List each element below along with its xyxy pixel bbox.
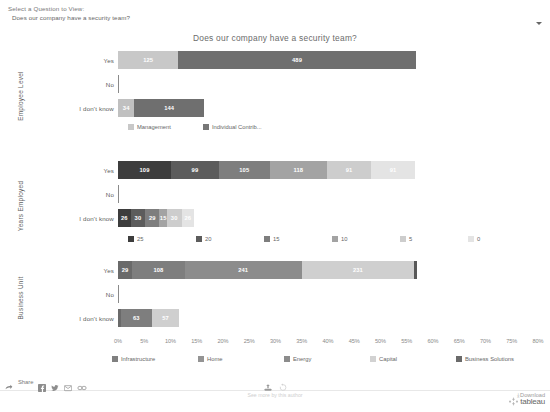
stacked-bar[interactable]: 125489 <box>118 51 416 69</box>
bar-segment[interactable]: 29 <box>145 209 159 227</box>
legend-item[interactable]: 10 <box>332 236 400 242</box>
bar-segment[interactable]: 63 <box>121 309 151 327</box>
viz-toolbar: Share See more by this author <box>0 376 550 412</box>
bar-segment[interactable]: 26 <box>182 209 195 227</box>
bar-segment[interactable] <box>118 75 119 93</box>
stacked-bar[interactable] <box>118 185 120 203</box>
bar-segment[interactable]: 26 <box>118 209 131 227</box>
legend-item[interactable]: 5 <box>400 236 468 242</box>
bar-segment[interactable]: 30 <box>167 209 182 227</box>
tableau-logo[interactable]: tableau <box>509 392 545 410</box>
legend-item[interactable]: 15 <box>264 236 332 242</box>
link-icon[interactable] <box>77 378 85 386</box>
legend-item[interactable]: 20 <box>196 236 264 242</box>
bar-segment[interactable] <box>118 285 119 303</box>
row-label: No <box>106 291 118 298</box>
share-arrow-icon[interactable] <box>5 378 13 386</box>
chevron-down-icon[interactable] <box>536 22 542 25</box>
bar-segment[interactable]: 15 <box>159 209 166 227</box>
bar-segment[interactable]: 29 <box>118 261 132 279</box>
bar-segment[interactable]: 105 <box>219 161 270 179</box>
bar-segment[interactable]: 30 <box>131 209 146 227</box>
axis-tick: 50% <box>375 338 386 344</box>
row-label: I don't know <box>79 215 118 222</box>
legend-item[interactable]: Individual Contrib... <box>203 124 278 130</box>
bar-segment[interactable]: 125 <box>118 51 178 69</box>
panel-business-unit: Business Unit Yes29108241231NoI don't kn… <box>0 258 550 376</box>
stacked-bar[interactable]: 34144 <box>118 99 204 117</box>
stacked-bar[interactable]: 109991051189191 <box>118 161 415 179</box>
bar-segment[interactable]: 489 <box>178 51 415 69</box>
legend-label: Individual Contrib... <box>212 124 262 130</box>
legend-label: Energy <box>293 356 311 362</box>
bar-segment[interactable]: 144 <box>134 99 204 117</box>
legend-years-employed[interactable]: 2520151050 <box>128 236 536 242</box>
panel-axis-title-years-employed: Years Employed <box>14 158 26 254</box>
chart-row: Yes109991051189191 <box>118 158 538 182</box>
axis-tick: 35% <box>296 338 307 344</box>
bar-segment[interactable]: 241 <box>185 261 302 279</box>
legend-swatch <box>370 356 376 362</box>
facebook-icon[interactable] <box>38 378 46 386</box>
bar-segment[interactable]: 231 <box>302 261 414 279</box>
legend-label: 25 <box>137 236 143 242</box>
bar-segment[interactable]: 91 <box>371 161 415 179</box>
x-axis-tick-labels: 0%5%10%15%20%25%30%35%40%45%50%55%60%65%… <box>118 338 538 348</box>
question-filter[interactable]: Select a Question to View: Does our comp… <box>8 4 308 22</box>
panel-rows: Yes109991051189191NoI don't know26302915… <box>118 158 538 230</box>
tableau-viz: Select a Question to View: Does our comp… <box>0 0 550 412</box>
legend-swatch <box>198 356 204 362</box>
bar-segment[interactable] <box>414 261 417 279</box>
share-group[interactable]: Share <box>5 378 85 386</box>
stacked-bar[interactable]: 29108241231 <box>118 261 417 279</box>
bar-segment[interactable]: 99 <box>171 161 219 179</box>
bar-segment[interactable]: 57 <box>152 309 180 327</box>
panel-axis-title-employee-level: Employee Level <box>14 48 26 144</box>
legend-item[interactable]: Infrastructure <box>112 356 198 362</box>
legend-swatch <box>196 236 202 242</box>
legend-label: Management <box>137 124 171 130</box>
axis-title-text: Business Unit <box>17 277 24 320</box>
stacked-bar[interactable]: 263029153026 <box>118 209 194 227</box>
stacked-bar[interactable] <box>118 285 120 303</box>
legend-item[interactable]: Energy <box>284 356 370 362</box>
axis-tick: 30% <box>270 338 281 344</box>
bar-segment[interactable]: 118 <box>270 161 327 179</box>
axis-tick: 55% <box>401 338 412 344</box>
see-more-label[interactable]: See more by this author <box>247 392 302 398</box>
axis-tick: 10% <box>165 338 176 344</box>
legend-business-unit[interactable]: InfrastructureHomeEnergyCapitalBusiness … <box>112 356 542 362</box>
legend-label: 5 <box>409 236 412 242</box>
legend-item[interactable]: Capital <box>370 356 456 362</box>
legend-item[interactable]: 0 <box>468 236 536 242</box>
tableau-mark-icon <box>509 392 518 410</box>
chart-row: I don't know6357 <box>118 306 538 330</box>
legend-item[interactable]: Home <box>198 356 284 362</box>
row-label: I don't know <box>79 315 118 322</box>
chart-row: No <box>118 182 538 206</box>
bar-segment[interactable]: 34 <box>118 99 134 117</box>
stacked-bar[interactable] <box>118 75 120 93</box>
revert-icon[interactable] <box>279 378 287 386</box>
bar-segment[interactable]: 91 <box>327 161 371 179</box>
email-icon[interactable] <box>64 378 72 386</box>
legend-item[interactable]: Management <box>128 124 203 130</box>
panel-rows: Yes29108241231NoI don't know6357 <box>118 258 538 330</box>
bar-segment[interactable]: 109 <box>118 161 171 179</box>
upload-icon[interactable] <box>264 378 272 386</box>
filter-selected-value[interactable]: Does our company have a security team? <box>8 13 308 22</box>
bar-segment[interactable]: 108 <box>132 261 185 279</box>
stacked-bar[interactable]: 6357 <box>118 309 179 327</box>
row-label: Yes <box>103 57 118 64</box>
legend-label: 15 <box>273 236 279 242</box>
legend-swatch <box>112 356 118 362</box>
center-tools[interactable] <box>264 378 287 386</box>
bar-segment[interactable] <box>118 185 119 203</box>
legend-employee-level[interactable]: ManagementIndividual Contrib... <box>128 124 278 130</box>
legend-swatch <box>400 236 406 242</box>
legend-item[interactable]: Business Solutions <box>456 356 542 362</box>
share-label[interactable]: Share <box>18 379 33 385</box>
twitter-icon[interactable] <box>51 378 59 386</box>
legend-item[interactable]: 25 <box>128 236 196 242</box>
chart-row: I don't know263029153026 <box>118 206 538 230</box>
